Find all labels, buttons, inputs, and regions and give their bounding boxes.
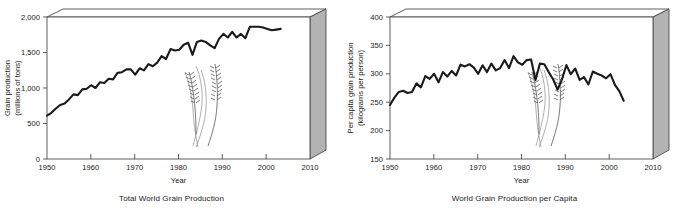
figure-root: 2,000 1,500 1,000 500 0 1950 1960 1970 1…	[0, 0, 685, 211]
y-axis-ticks	[43, 17, 47, 159]
box-right-face	[310, 9, 326, 159]
chart-caption: World Grain Production per Capita	[343, 194, 685, 203]
x-tick-label: 1950	[39, 163, 56, 172]
y-tick-label: 500	[27, 119, 40, 128]
x-axis-title: Year	[514, 176, 530, 185]
x-tick-label: 1960	[82, 163, 99, 172]
box-right-face	[653, 9, 669, 159]
x-tick-label: 1960	[425, 163, 442, 172]
box-top-face	[47, 9, 326, 17]
y-tick-label: 200	[370, 126, 383, 135]
y-tick-label: 300	[370, 69, 383, 78]
y-tick-label: 2,000	[21, 13, 40, 22]
y-axis-title-line2: (kilograms per person)	[356, 50, 365, 126]
y-axis-tick-labels: 400 350 300 250 200 150	[370, 13, 383, 164]
y-axis-title: Per capita grain production (kilograms p…	[346, 43, 365, 134]
x-axis-tick-labels: 1950 1960 1970 1980 1990 2000 2010	[382, 163, 662, 172]
y-tick-label: 250	[370, 98, 383, 107]
x-tick-label: 1970	[126, 163, 143, 172]
plot-back-wall	[390, 17, 653, 159]
chart-world-grain-production-per-capita: 400 350 300 250 200 150 1950 1960 1970 1…	[343, 0, 685, 211]
x-tick-label: 1980	[170, 163, 187, 172]
y-axis-title-line1: Grain production	[3, 60, 12, 116]
chart-total-world-grain-production: 2,000 1,500 1,000 500 0 1950 1960 1970 1…	[0, 0, 343, 211]
x-tick-label: 1990	[214, 163, 231, 172]
y-tick-label: 350	[370, 41, 383, 50]
y-axis-tick-labels: 2,000 1,500 1,000 500 0	[21, 13, 40, 164]
box-top-face	[390, 9, 669, 17]
y-tick-label: 1,500	[21, 48, 40, 57]
y-axis-title: Grain production (millions of tons)	[3, 60, 22, 116]
chart-panel-total-world-grain-production: 2,000 1,500 1,000 500 0 1950 1960 1970 1…	[0, 0, 343, 211]
y-axis-ticks	[386, 17, 390, 159]
chart-panel-world-grain-production-per-capita: 400 350 300 250 200 150 1950 1960 1970 1…	[343, 0, 685, 211]
x-tick-label: 2010	[302, 163, 319, 172]
x-tick-label: 1970	[469, 163, 486, 172]
y-tick-label: 1,000	[21, 84, 40, 93]
x-axis-title: Year	[171, 176, 187, 185]
x-tick-label: 2000	[601, 163, 618, 172]
x-tick-label: 1990	[557, 163, 574, 172]
y-tick-label: 400	[370, 13, 383, 22]
x-tick-label: 2000	[258, 163, 275, 172]
x-tick-label: 1980	[513, 163, 530, 172]
y-axis-title-line1: Per capita grain production	[346, 43, 355, 134]
y-axis-title-line2: (millions of tons)	[13, 60, 22, 116]
chart-caption: Total World Grain Production	[0, 194, 343, 203]
x-tick-label: 1950	[382, 163, 399, 172]
x-tick-label: 2010	[645, 163, 662, 172]
x-axis-tick-labels: 1950 1960 1970 1980 1990 2000 2010	[39, 163, 319, 172]
